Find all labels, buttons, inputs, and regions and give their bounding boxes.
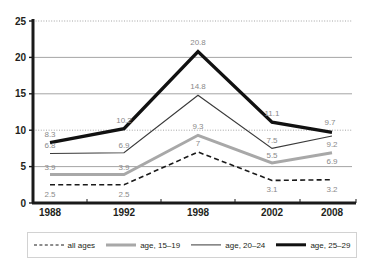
point-label-3-0: 8.3 (44, 130, 56, 139)
point-label-2-0: 6.8 (44, 141, 56, 150)
legend-item-2[interactable]: age, 20–24 (191, 241, 265, 250)
thick-black-line-icon (276, 241, 306, 249)
series-line-3 (50, 52, 332, 143)
point-label-1-1: 3.9 (118, 163, 130, 172)
x-tick-label-1988: 1988 (39, 207, 62, 218)
point-label-3-2: 20.8 (190, 38, 206, 47)
y-tick-label-15: 15 (15, 88, 27, 99)
legend-item-0[interactable]: all ages (34, 241, 96, 250)
thick-grey-line-icon (106, 241, 136, 249)
point-label-1-3: 5.5 (266, 151, 278, 160)
plot-svg: 0510152025 2.52.573.13.23.93.99.35.56.96… (0, 0, 380, 225)
point-label-2-2: 14.8 (190, 82, 206, 91)
x-tick-label-1992: 1992 (113, 207, 136, 218)
legend-item-3[interactable]: age, 25–29 (276, 241, 350, 250)
legend-label-1: age, 15–19 (140, 241, 180, 250)
point-label-0-1: 2.5 (118, 190, 130, 199)
legend-label-3: age, 25–29 (310, 241, 350, 250)
y-tick-label-10: 10 (15, 125, 27, 136)
point-label-3-1: 10.2 (116, 116, 132, 125)
point-label-3-4: 9.7 (324, 118, 336, 127)
chart-legend: all agesage, 15–19age, 20–24age, 25–29 (27, 232, 357, 258)
plot-area: 0510152025 2.52.573.13.23.93.99.35.56.96… (0, 0, 380, 225)
point-label-1-0: 3.9 (44, 163, 56, 172)
x-axis-tick-labels: 19881992199820022008 (39, 207, 344, 218)
point-label-2-1: 6.9 (118, 141, 130, 150)
point-label-2-4: 9.2 (326, 140, 338, 149)
dashed-line-icon (34, 241, 64, 249)
x-tick-label-2008: 2008 (321, 207, 344, 218)
series-line-0 (50, 152, 332, 185)
y-tick-label-20: 20 (15, 52, 27, 63)
legend-label-0: all ages (68, 241, 96, 250)
point-label-0-0: 2.5 (44, 190, 56, 199)
point-label-0-4: 3.2 (326, 185, 338, 194)
legend-label-2: age, 20–24 (225, 241, 265, 250)
y-tick-label-0: 0 (20, 198, 26, 209)
point-label-3-3: 11.1 (265, 109, 281, 118)
y-axis-tick-labels: 0510152025 (15, 16, 33, 209)
x-tick-label-1998: 1998 (187, 207, 210, 218)
point-label-0-3: 3.1 (266, 185, 278, 194)
x-tick-label-2002: 2002 (261, 207, 284, 218)
series-line-1 (50, 135, 332, 174)
legend-item-1[interactable]: age, 15–19 (106, 241, 180, 250)
point-label-1-2: 9.3 (192, 122, 204, 131)
series-lines (50, 52, 332, 185)
y-tick-label-25: 25 (15, 16, 27, 27)
y-tick-label-5: 5 (20, 161, 26, 172)
point-label-2-3: 7.5 (266, 136, 278, 145)
point-label-1-4: 6.9 (326, 157, 338, 166)
line-chart: 0510152025 2.52.573.13.23.93.99.35.56.96… (0, 0, 380, 270)
thin-black-line-icon (191, 241, 221, 249)
point-label-0-2: 7 (196, 139, 201, 148)
